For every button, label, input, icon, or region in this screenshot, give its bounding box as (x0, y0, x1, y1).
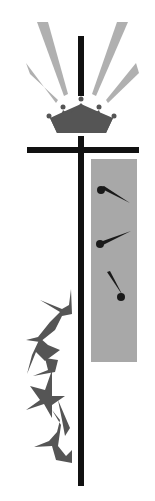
crown-icon (47, 97, 117, 134)
cross-illustration (0, 0, 155, 501)
cross-top-stem (78, 36, 84, 96)
thorns-icon (26, 289, 72, 463)
